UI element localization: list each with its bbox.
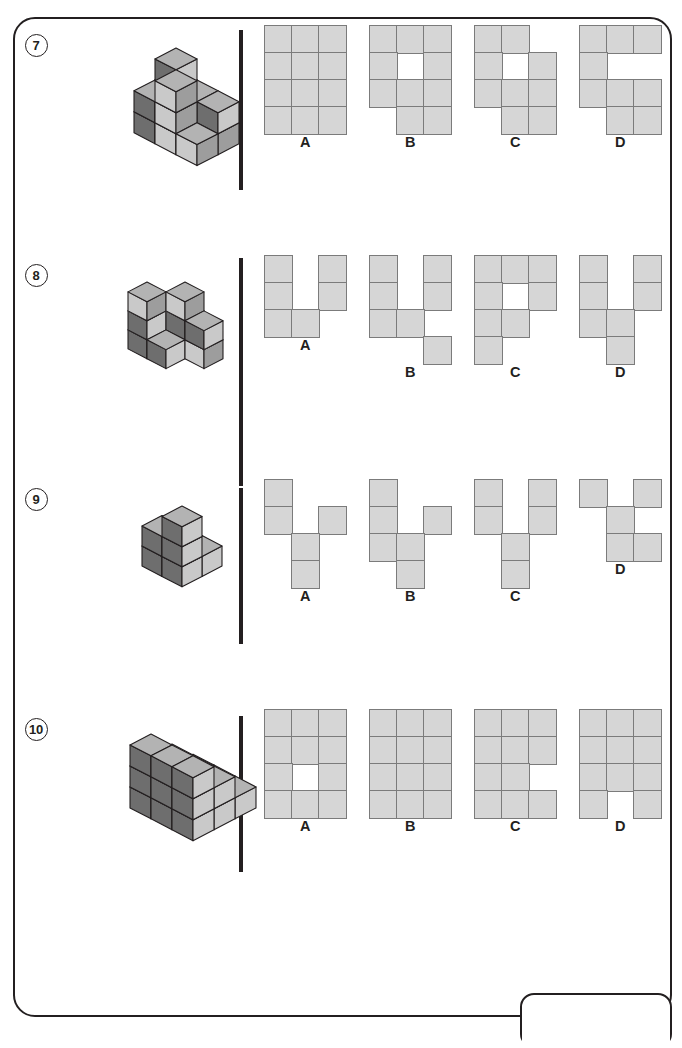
- filled-cell: [606, 533, 634, 561]
- empty-cell: [424, 561, 451, 588]
- empty-cell: [607, 53, 634, 80]
- option-d[interactable]: D: [580, 256, 661, 380]
- filled-cell: [264, 309, 292, 337]
- filled-cell: [291, 709, 319, 737]
- filled-cell: [528, 506, 556, 534]
- filled-cell: [264, 736, 292, 764]
- empty-cell: [370, 107, 397, 134]
- empty-cell: [319, 534, 346, 561]
- filled-cell: [474, 790, 502, 818]
- empty-cell: [292, 480, 319, 507]
- filled-cell: [318, 25, 346, 53]
- option-a[interactable]: A: [265, 480, 346, 604]
- empty-cell: [580, 107, 607, 134]
- filled-cell: [369, 255, 397, 283]
- empty-cell: [319, 310, 346, 337]
- filled-cell: [633, 479, 661, 507]
- empty-cell: [502, 337, 529, 364]
- filled-cell: [291, 533, 319, 561]
- option-shape: [370, 480, 451, 588]
- filled-cell: [474, 255, 502, 283]
- empty-cell: [424, 310, 451, 337]
- filled-cell: [291, 560, 319, 588]
- filled-cell: [318, 736, 346, 764]
- filled-cell: [291, 309, 319, 337]
- cube-stack-figure-10: [58, 710, 234, 890]
- empty-cell: [397, 337, 424, 364]
- filled-cell: [396, 560, 424, 588]
- shape-grid: [580, 256, 661, 364]
- filled-cell: [474, 336, 502, 364]
- empty-cell: [475, 561, 502, 588]
- shape-grid: [265, 26, 346, 134]
- filled-cell: [318, 255, 346, 283]
- option-b[interactable]: B: [370, 710, 451, 834]
- option-b[interactable]: B: [370, 480, 451, 604]
- filled-cell: [579, 255, 607, 283]
- filled-cell: [264, 506, 292, 534]
- question-row-7: 7ABCD: [14, 26, 669, 206]
- filled-cell: [291, 52, 319, 80]
- option-b[interactable]: B: [370, 256, 451, 380]
- option-label: D: [615, 364, 626, 380]
- question-row-10: 10ABCD: [14, 710, 669, 890]
- filled-cell: [369, 25, 397, 53]
- empty-cell: [397, 53, 424, 80]
- filled-cell: [396, 309, 424, 337]
- filled-cell: [396, 736, 424, 764]
- corner-tab-mask: [522, 1014, 670, 1048]
- empty-cell: [370, 337, 397, 364]
- worksheet-page: 7ABCD8ABCD9ABCD10ABCD: [0, 0, 682, 1048]
- option-d[interactable]: D: [580, 26, 661, 150]
- option-c[interactable]: C: [475, 710, 556, 834]
- empty-cell: [265, 534, 292, 561]
- shape-grid: [265, 256, 346, 337]
- option-c[interactable]: C: [475, 480, 556, 604]
- filled-cell: [606, 25, 634, 53]
- filled-cell: [396, 25, 424, 53]
- empty-cell: [292, 507, 319, 534]
- option-shape: [370, 256, 451, 364]
- filled-cell: [264, 790, 292, 818]
- empty-cell: [397, 480, 424, 507]
- option-a[interactable]: A: [265, 26, 346, 150]
- filled-cell: [633, 106, 661, 134]
- filled-cell: [606, 763, 634, 791]
- option-label: A: [300, 588, 311, 604]
- filled-cell: [474, 79, 502, 107]
- filled-cell: [633, 25, 661, 53]
- filled-cell: [264, 282, 292, 310]
- option-shape: [580, 256, 661, 364]
- option-d[interactable]: D: [580, 710, 661, 834]
- filled-cell: [318, 79, 346, 107]
- empty-cell: [319, 480, 346, 507]
- option-a[interactable]: A: [265, 710, 346, 834]
- option-c[interactable]: C: [475, 256, 556, 380]
- shape-grid: [475, 480, 556, 588]
- option-d[interactable]: D: [580, 480, 661, 604]
- option-a[interactable]: A: [265, 256, 346, 380]
- option-shape: [475, 480, 556, 588]
- filled-cell: [264, 479, 292, 507]
- option-label: B: [405, 364, 416, 380]
- filled-cell: [369, 79, 397, 107]
- filled-cell: [423, 25, 451, 53]
- question-number: 10: [14, 710, 58, 741]
- option-b[interactable]: B: [370, 26, 451, 150]
- cube-stack-figure-8: [58, 256, 234, 436]
- filled-cell: [264, 52, 292, 80]
- shape-grid: [475, 26, 556, 134]
- filled-cell: [423, 336, 451, 364]
- option-label: A: [300, 337, 311, 353]
- filled-cell: [579, 709, 607, 737]
- filled-cell: [501, 106, 529, 134]
- option-c[interactable]: C: [475, 26, 556, 150]
- shape-grid: [265, 480, 346, 588]
- filled-cell: [318, 106, 346, 134]
- filled-cell: [501, 309, 529, 337]
- shape-grid: [475, 710, 556, 818]
- filled-cell: [633, 282, 661, 310]
- empty-cell: [634, 53, 661, 80]
- filled-cell: [423, 790, 451, 818]
- question-number-badge: 8: [25, 264, 48, 287]
